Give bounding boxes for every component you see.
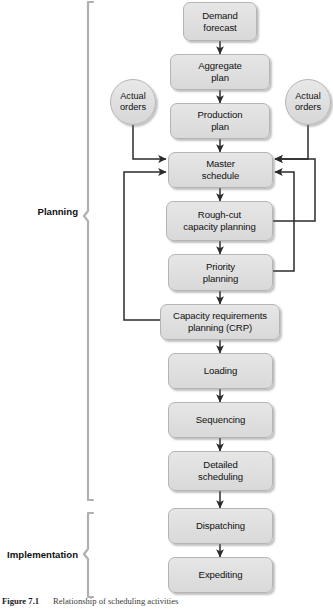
figure-caption-label: Figure 7.1 xyxy=(2,596,39,606)
edge-actual-orders-right-to-master xyxy=(275,125,308,159)
node-priority-planning-line1: Priority xyxy=(201,261,240,273)
node-dispatching[interactable]: Dispatching xyxy=(168,508,273,544)
node-aggregate-plan-line1: Aggregate xyxy=(196,60,243,72)
node-detailed-scheduling-line1: Detailed xyxy=(196,459,245,471)
node-master-schedule[interactable]: Master schedule xyxy=(168,152,273,188)
node-detailed-scheduling-line2: scheduling xyxy=(196,471,245,483)
node-demand-forecast-line1: Demand xyxy=(200,10,240,22)
node-production-plan[interactable]: Production plan xyxy=(170,103,270,139)
node-rough-cut-line2: capacity planning xyxy=(181,221,257,233)
node-crp-line2: planning (CRP) xyxy=(171,322,269,334)
node-actual-orders-right[interactable]: Actual orders xyxy=(285,79,331,125)
node-priority-planning-line2: planning xyxy=(201,273,240,285)
node-dispatching-label: Dispatching xyxy=(194,520,247,532)
actual-orders-right-line2: orders xyxy=(295,102,321,112)
edge-actual-orders-left-to-master xyxy=(133,125,166,159)
figure-caption-text: Relationship of scheduling activities xyxy=(53,596,178,606)
node-sequencing[interactable]: Sequencing xyxy=(168,402,273,438)
actual-orders-left-line2: orders xyxy=(120,102,146,112)
node-aggregate-plan-line2: plan xyxy=(196,72,243,84)
node-production-plan-line1: Production xyxy=(196,109,245,121)
actual-orders-right-line1: Actual xyxy=(295,91,321,101)
bracket-planning xyxy=(84,2,93,500)
bracket-implementation xyxy=(84,513,93,597)
node-expediting-label: Expediting xyxy=(197,569,245,581)
node-master-schedule-line1: Master xyxy=(200,158,242,170)
node-master-schedule-line2: schedule xyxy=(200,170,242,182)
edge-roughcut-feedback-to-master xyxy=(273,159,315,221)
node-production-plan-line2: plan xyxy=(196,121,245,133)
edge-crp-feedback-to-master xyxy=(124,172,168,320)
node-actual-orders-left[interactable]: Actual orders xyxy=(110,79,156,125)
group-label-implementation: Implementation xyxy=(0,549,78,560)
node-demand-forecast[interactable]: Demand forecast xyxy=(183,2,257,41)
figure-caption: Figure 7.1Relationship of scheduling act… xyxy=(2,596,333,606)
group-label-planning: Planning xyxy=(0,206,78,217)
edge-priority-feedback-to-master xyxy=(273,172,294,271)
node-detailed-scheduling[interactable]: Detailed scheduling xyxy=(168,451,273,491)
figure-container: Demand forecast Aggregate plan Productio… xyxy=(0,0,333,610)
actual-orders-left-line1: Actual xyxy=(120,91,146,101)
node-priority-planning[interactable]: Priority planning xyxy=(168,254,273,291)
node-rough-cut-capacity-planning[interactable]: Rough-cut capacity planning xyxy=(166,201,273,241)
node-loading[interactable]: Loading xyxy=(168,353,273,389)
node-demand-forecast-line2: forecast xyxy=(200,22,240,34)
node-crp-line1: Capacity requirements xyxy=(171,310,269,322)
node-expediting[interactable]: Expediting xyxy=(168,557,273,593)
node-sequencing-label: Sequencing xyxy=(194,414,248,426)
node-aggregate-plan[interactable]: Aggregate plan xyxy=(170,54,270,90)
node-capacity-requirements-planning[interactable]: Capacity requirements planning (CRP) xyxy=(160,304,280,340)
node-loading-label: Loading xyxy=(202,365,239,377)
node-rough-cut-line1: Rough-cut xyxy=(181,209,257,221)
